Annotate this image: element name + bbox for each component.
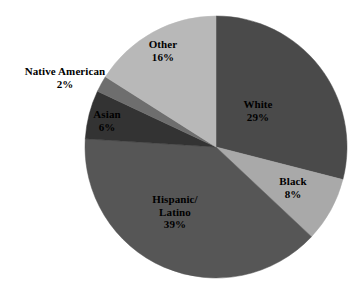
pie-label-asian-name: Asian — [78, 108, 136, 121]
pie-label-black: Black 8% — [262, 175, 324, 200]
pie-label-other-value: 16% — [128, 51, 198, 64]
pie-label-native-american: Native American 2% — [2, 65, 128, 90]
pie-label-white-name: White — [222, 98, 294, 111]
pie-label-hispanic-latino-value: 39% — [130, 218, 220, 231]
pie-label-hispanic-latino-name-line2: Latino — [130, 206, 220, 219]
pie-chart: White 29% Black 8% Hispanic/ Latino 39% … — [0, 0, 355, 293]
pie-label-asian-value: 6% — [78, 121, 136, 134]
pie-label-asian: Asian 6% — [78, 108, 136, 133]
pie-label-black-value: 8% — [262, 188, 324, 201]
pie-label-native-american-value: 2% — [2, 78, 128, 91]
pie-label-native-american-name: Native American — [2, 65, 128, 78]
pie-label-other-name: Other — [128, 38, 198, 51]
pie-label-hispanic-latino-name-line1: Hispanic/ — [130, 193, 220, 206]
pie-slices-group — [85, 16, 347, 278]
pie-label-black-name: Black — [262, 175, 324, 188]
pie-label-hispanic-latino: Hispanic/ Latino 39% — [130, 193, 220, 231]
pie-label-other: Other 16% — [128, 38, 198, 63]
pie-label-white-value: 29% — [222, 111, 294, 124]
pie-label-white: White 29% — [222, 98, 294, 123]
